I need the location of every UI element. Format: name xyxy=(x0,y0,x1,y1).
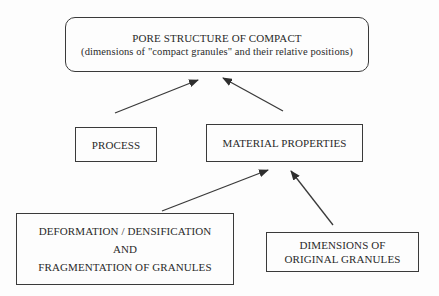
process-box: PROCESS xyxy=(75,127,157,162)
diagram-canvas: PORE STRUCTURE OF COMPACT (dimensions of… xyxy=(0,0,439,296)
arrow-dimensions-to-material xyxy=(291,171,333,225)
arrow-material-to-pore xyxy=(223,78,283,111)
arrow-process-to-pore xyxy=(115,80,198,113)
deformation-line3: FRAGMENTATION OF GRANULES xyxy=(38,257,211,277)
dimensions-line2: ORIGINAL GRANULES xyxy=(285,252,401,266)
material-properties-label: MATERIAL PROPERTIES xyxy=(223,136,347,150)
dimensions-box: DIMENSIONS OF ORIGINAL GRANULES xyxy=(266,232,419,272)
material-properties-box: MATERIAL PROPERTIES xyxy=(206,124,363,162)
pore-structure-title: PORE STRUCTURE OF COMPACT xyxy=(132,31,301,45)
deformation-line1: DEFORMATION / DENSIFICATION xyxy=(39,221,212,241)
process-label: PROCESS xyxy=(92,138,140,152)
dimensions-line1: DIMENSIONS OF xyxy=(300,238,386,252)
pore-structure-subtitle: (dimensions of "compact granules" and th… xyxy=(81,45,353,59)
deformation-box: DEFORMATION / DENSIFICATION AND FRAGMENT… xyxy=(16,213,234,285)
arrow-deformation-to-material xyxy=(162,170,268,211)
pore-structure-box: PORE STRUCTURE OF COMPACT (dimensions of… xyxy=(65,17,369,72)
deformation-line2: AND xyxy=(113,241,137,257)
